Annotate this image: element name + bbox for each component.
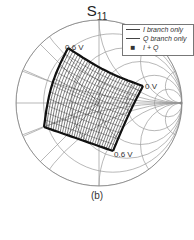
dot-marker-icon: ■ — [126, 44, 140, 52]
annotation-top-left: 0.6 V — [65, 43, 84, 52]
legend-item-i-plus-q: ■ I + Q — [123, 43, 193, 52]
open-circuit-marker — [180, 102, 183, 105]
figure-caption: (b) — [0, 190, 194, 201]
legend-item-i-branch: I branch only — [123, 25, 193, 34]
line-marker-icon — [126, 29, 140, 30]
annotation-bottom: 0.6 V — [114, 150, 133, 159]
legend-item-q-branch: Q branch only — [123, 34, 193, 43]
annotation-right: 0 V — [145, 82, 157, 91]
line-marker-icon — [126, 38, 140, 39]
legend: I branch only Q branch only ■ I + Q — [122, 24, 194, 56]
